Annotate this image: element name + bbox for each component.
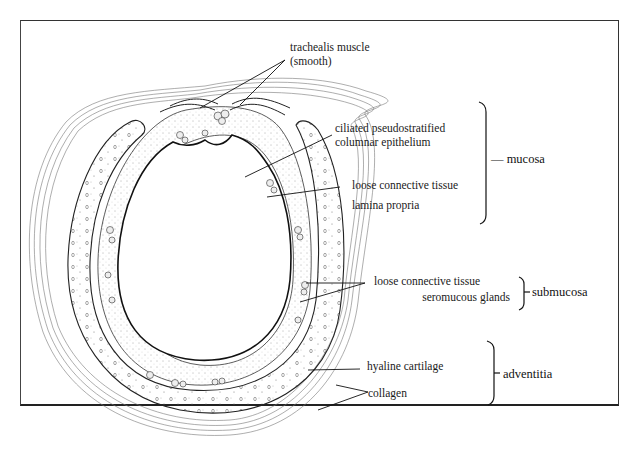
- label-trachealis-line1: trachealis muscle: [290, 40, 370, 54]
- group-adventitia: adventitia: [503, 367, 552, 381]
- label-epithelium: ciliated pseudostratified columnar epith…: [335, 121, 445, 149]
- label-epithelium-line1: ciliated pseudostratified: [335, 121, 445, 135]
- label-submucosa-detail: loose connective tissue seromucous gland…: [374, 273, 510, 305]
- label-submucosa-line1: loose connective tissue: [374, 273, 510, 289]
- label-trachealis-muscle: trachealis muscle (smooth): [290, 40, 370, 68]
- group-submucosa: submucosa: [532, 285, 588, 299]
- label-collagen: collagen: [368, 386, 407, 400]
- brackets: [479, 102, 530, 405]
- label-hyaline-cartilage: hyaline cartilage: [367, 359, 443, 373]
- label-epithelium-line2: columnar epithelium: [335, 135, 445, 149]
- label-submucosa-line2: seromucous glands: [374, 289, 510, 305]
- group-mucosa: — mucosa: [491, 152, 545, 166]
- label-lamina-line2: lamina propria: [352, 195, 458, 215]
- label-lamina-line1: loose connective tissue: [352, 175, 458, 195]
- label-trachealis-line2: (smooth): [290, 54, 370, 68]
- label-lamina-propria: loose connective tissue lamina propria: [352, 175, 458, 215]
